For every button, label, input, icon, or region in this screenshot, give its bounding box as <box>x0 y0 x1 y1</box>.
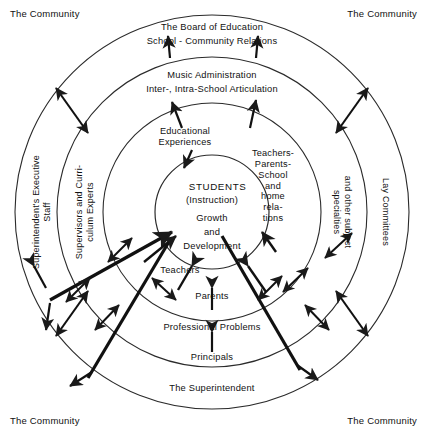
diagonal-left-branch-up <box>34 266 46 288</box>
diagonal-left-branch-down <box>46 303 50 330</box>
arrow-outer-lower-right <box>336 291 368 336</box>
principals-label: Principals <box>191 352 233 363</box>
arrow-cross-ll-1 <box>152 278 176 300</box>
diagonal-right-branch <box>297 365 318 380</box>
corner-label-top-left: The Community <box>10 8 80 19</box>
thick-diagonal-lower-left <box>70 240 176 386</box>
parents-label: Parents <box>195 291 228 302</box>
professional-problems-label: Professional Problems <box>163 322 260 333</box>
arrow-cross-right-1 <box>258 276 282 300</box>
teachers-parents-school-home-relations-label: Teachers- Parents- School and home rela-… <box>252 148 294 224</box>
arrow-mid-right-inner <box>283 268 308 292</box>
corner-label-bottom-left: The Community <box>10 415 80 426</box>
instruction-label: (Instruction) <box>186 193 238 207</box>
thick-diagonal-right <box>222 236 318 380</box>
arrow-core-right-up <box>262 232 276 252</box>
supervisors-curriculum-experts-label: Supervisors and Curri- culum Experts <box>74 165 96 259</box>
corner-label-top-right: The Community <box>347 8 417 19</box>
music-administration-line1: Music Administration <box>167 70 256 81</box>
arrow-cross-left-1 <box>108 238 132 262</box>
diagonal-line-right <box>222 236 300 370</box>
diagonal-lower-left-branch <box>70 372 92 386</box>
development-label: Development <box>183 239 240 253</box>
and-label: and <box>204 225 220 239</box>
other-subject-specialties-label: and other subject specialties <box>331 176 353 248</box>
growth-label: Growth <box>196 211 227 225</box>
arrow-outer-lower-left <box>56 291 88 336</box>
the-superintendent-label: The Superintendent <box>169 383 254 394</box>
arrow-music-left-up <box>172 102 182 128</box>
school-community-relations-line2: School - Community Relations <box>147 36 278 47</box>
students-text: STUDENTS <box>189 181 247 192</box>
educational-experiences-label: Educational Experiences <box>159 126 212 148</box>
arrow-music-right-up <box>250 100 256 128</box>
board-of-education-line1: The Board of Education <box>161 22 263 33</box>
teachers-label: Teachers <box>160 265 199 276</box>
diagram-root: The Community The Community The Communit… <box>0 0 427 434</box>
thick-diagonal-left <box>34 232 172 330</box>
arrow-outer-upper-left <box>56 88 88 133</box>
lay-committees-label: Lay Committees <box>381 178 392 246</box>
corner-label-bottom-right: The Community <box>347 415 417 426</box>
arrow-outer-upper-right <box>336 88 368 133</box>
inter-intra-school-articulation-line2: Inter-, Intra-School Articulation <box>146 84 278 95</box>
superintendents-executive-staff-label: Superintendent's Executive Staff <box>31 155 53 269</box>
